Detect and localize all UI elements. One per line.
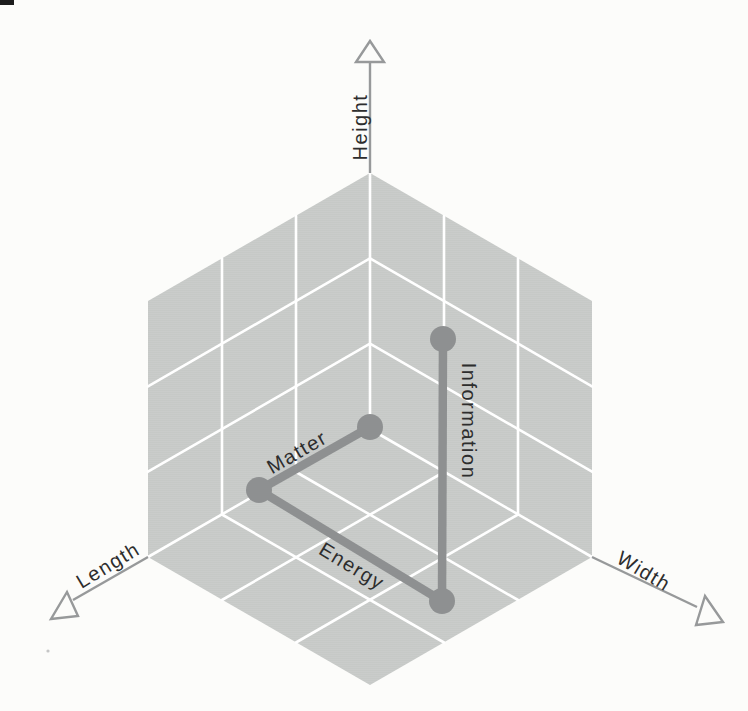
scan-artifact-top-left [0, 0, 14, 5]
dot-matter-energy-junction [246, 477, 272, 503]
dot-energy-information-junction [429, 588, 455, 614]
information-segment-label: Information [458, 363, 480, 480]
scan-artifact-dot [46, 649, 49, 652]
dot-matter-end [357, 414, 383, 440]
book-figure-page: Height Length Width Matter Energy Inform… [0, 0, 748, 711]
dot-information-top [430, 326, 456, 352]
information-segment [442, 339, 443, 601]
cube-diagram: Height Length Width Matter Energy Inform… [0, 0, 748, 711]
height-axis-label: Height [349, 94, 371, 161]
